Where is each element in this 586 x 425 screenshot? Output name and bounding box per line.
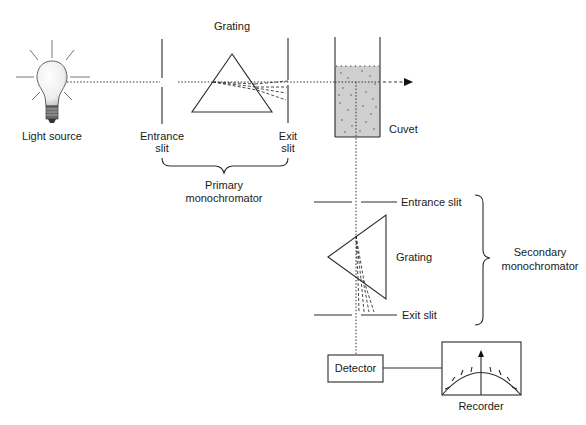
spectrometer-diagram: Light source Entrance slit Grating Exit … [0, 0, 586, 425]
light-source-label: Light source [22, 130, 82, 142]
primary-entrance-slit-label-2: slit [155, 142, 168, 154]
light-bulb-icon [16, 40, 90, 123]
primary-monochromator-label: Primary [205, 179, 243, 191]
secondary-monochromator-label: Secondary [514, 246, 567, 258]
cuvet [335, 37, 380, 137]
secondary-entrance-slit-label: Entrance slit [401, 196, 462, 208]
primary-grating-prism [192, 54, 288, 112]
secondary-exit-slit-label: Exit slit [402, 309, 437, 321]
primary-entrance-slit-label: Entrance [140, 130, 184, 142]
meter-gauge-icon [442, 342, 521, 395]
detector-label: Detector [335, 362, 377, 374]
cuvet-label: Cuvet [389, 123, 418, 135]
recorder-label: Recorder [458, 400, 504, 412]
secondary-monochromator-brace [475, 195, 490, 325]
secondary-monochromator-label-2: monochromator [501, 260, 578, 272]
primary-exit-slit-label: Exit [279, 130, 297, 142]
primary-grating-label: Grating [214, 20, 250, 32]
primary-exit-slit-label-2: slit [281, 142, 294, 154]
secondary-grating-label: Grating [396, 251, 432, 263]
secondary-grating-prism [328, 215, 386, 312]
primary-monochromator-label-2: monochromator [185, 192, 262, 204]
primary-monochromator-brace [162, 158, 288, 173]
